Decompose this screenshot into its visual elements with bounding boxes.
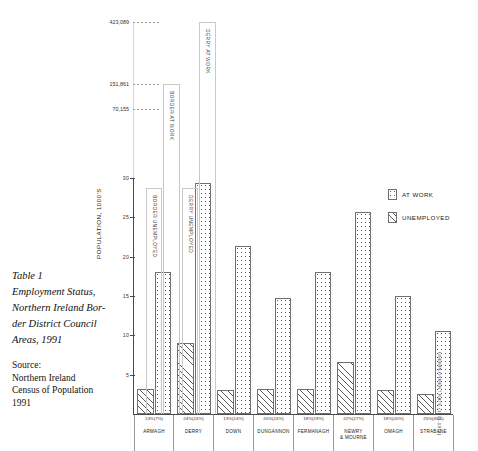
category-name-label: NEWRY& MOURNE bbox=[334, 429, 373, 440]
bar-unemployed[interactable] bbox=[337, 362, 354, 414]
edge-annotation: UNEMPLOYMENT RATE (1971-1971) bbox=[437, 352, 442, 435]
source-line: Northern Ireland bbox=[12, 372, 122, 385]
category-percent-label: 25%(49%) bbox=[414, 416, 453, 421]
bar-at-work[interactable] bbox=[275, 298, 292, 414]
category-name-label: STRABANE bbox=[414, 429, 453, 435]
legend-label: AT WORK bbox=[402, 191, 433, 198]
chart-legend: AT WORK UNEMPLOYED bbox=[388, 189, 450, 235]
x-axis-category: 24%(24%)DERRY bbox=[174, 415, 214, 451]
source-line: Source: bbox=[12, 359, 122, 372]
legend-label: UNEMPLOYED bbox=[402, 214, 450, 221]
figure-caption: Table 1 Employment Status, Northern Irel… bbox=[12, 268, 122, 409]
bar-at-work[interactable] bbox=[355, 212, 372, 414]
caption-line: der District Council bbox=[12, 316, 122, 332]
bar-group bbox=[334, 8, 374, 414]
x-axis-category: 13%(7%)ARMAGH bbox=[134, 415, 174, 451]
caption-line: Northern Ireland Bor- bbox=[12, 300, 122, 316]
category-name-label: DUNGANNON bbox=[254, 429, 293, 435]
overflow-bar-label: DERRY AT WORK bbox=[205, 29, 210, 74]
category-name-label: ARMAGH bbox=[135, 429, 173, 435]
at-work-swatch-icon bbox=[388, 189, 397, 200]
overflow-bar[interactable]: DERRY UNEMPLOYED bbox=[182, 188, 198, 414]
legend-item-unemployed: UNEMPLOYED bbox=[388, 212, 450, 223]
figure-source: Source: Northern Ireland Census of Popul… bbox=[12, 359, 122, 409]
y-axis-tick-label: 5 bbox=[126, 372, 129, 378]
bar-unemployed[interactable] bbox=[297, 389, 314, 414]
bar-group bbox=[294, 8, 334, 414]
axis-break-label: 151,861 bbox=[110, 81, 130, 87]
overflow-bar[interactable]: BORDER UNEMPLOYED bbox=[146, 188, 162, 414]
y-axis-title: POPULATION, 1000'S bbox=[95, 188, 109, 259]
axis-break-label: 423,089 bbox=[110, 19, 130, 25]
overflow-bar[interactable]: DERRY AT WORK bbox=[199, 22, 216, 414]
category-percent-label: 24%(24%) bbox=[174, 416, 213, 421]
caption-line: Employment Status, bbox=[12, 284, 122, 300]
source-line: 1991 bbox=[12, 397, 122, 410]
overflow-bar[interactable]: BORDER AT WORK bbox=[163, 84, 180, 414]
category-name-label: OMAGH bbox=[374, 429, 413, 435]
category-name-label: DERRY bbox=[174, 429, 213, 435]
y-axis-tick-label: 10 bbox=[123, 332, 129, 338]
overflow-bar-label: DERRY UNEMPLOYED bbox=[188, 195, 193, 253]
category-percent-label: 13%(7%) bbox=[135, 416, 173, 421]
x-axis-category: 18%(20%)OMAGH bbox=[374, 415, 414, 451]
x-axis-category: 13%(14%)DOWN bbox=[214, 415, 254, 451]
bar-chart: POPULATION, 1000'S 51015202530 70,155151… bbox=[133, 8, 465, 432]
y-axis-tick-label: 25 bbox=[123, 214, 129, 220]
bar-at-work[interactable] bbox=[395, 296, 412, 414]
overflow-bar-label: BORDER UNEMPLOYED bbox=[152, 195, 157, 257]
y-axis-tick-label: 15 bbox=[123, 293, 129, 299]
x-axis-category: 25%(49%)STRABANE bbox=[414, 415, 454, 451]
unemployed-swatch-icon bbox=[388, 212, 397, 223]
overflow-bar-label: BORDER AT WORK bbox=[169, 91, 174, 140]
category-percent-label: 20%(24%) bbox=[254, 416, 293, 421]
y-axis-tick-label: 20 bbox=[123, 254, 129, 260]
y-axis-tick-label: 30 bbox=[123, 175, 129, 181]
category-percent-label: 13%(14%) bbox=[214, 416, 253, 421]
bar-unemployed[interactable] bbox=[257, 389, 274, 414]
bar-at-work[interactable] bbox=[235, 246, 252, 414]
legend-item-at-work: AT WORK bbox=[388, 189, 450, 200]
caption-line: Areas, 1991 bbox=[12, 332, 122, 348]
bar-unemployed[interactable] bbox=[217, 390, 234, 414]
caption-line: Table 1 bbox=[12, 268, 122, 284]
bar-at-work[interactable] bbox=[315, 272, 332, 414]
bar-unemployed[interactable] bbox=[377, 390, 394, 414]
x-axis-category: 20%(24%)DUNGANNON bbox=[254, 415, 294, 451]
bar-group bbox=[254, 8, 294, 414]
category-percent-label: 18%(19%) bbox=[294, 416, 333, 421]
category-percent-label: 22%(27%) bbox=[334, 416, 373, 421]
bar-unemployed[interactable] bbox=[417, 394, 434, 414]
category-percent-label: 18%(20%) bbox=[374, 416, 413, 421]
source-line: Census of Population bbox=[12, 384, 122, 397]
axis-break-label: 70,155 bbox=[113, 106, 130, 112]
x-axis-category: 22%(27%)NEWRY& MOURNE bbox=[334, 415, 374, 451]
category-name-label: DOWN bbox=[214, 429, 253, 435]
x-axis-category: 18%(19%)FERMANAGH bbox=[294, 415, 334, 451]
category-name-label: FERMANAGH bbox=[294, 429, 333, 435]
bar-group bbox=[214, 8, 254, 414]
